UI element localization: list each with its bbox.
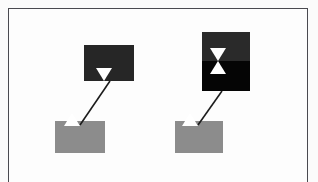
left-target-marker-down-triangle-icon: [96, 68, 112, 81]
right-target-marker-up-triangle-icon: [210, 61, 226, 74]
right-target-marker-down-triangle-icon: [210, 48, 226, 61]
left-source-marker-up-triangle-icon: [64, 113, 80, 126]
left-source-block[interactable]: [55, 121, 105, 153]
left-connector-line: [80, 81, 110, 125]
diagram-content: [0, 0, 318, 182]
right-source-marker-up-triangle-icon: [182, 113, 198, 126]
figure-canvas: [0, 0, 318, 182]
right-connector-line: [198, 91, 222, 125]
connector-layer: [0, 0, 318, 182]
